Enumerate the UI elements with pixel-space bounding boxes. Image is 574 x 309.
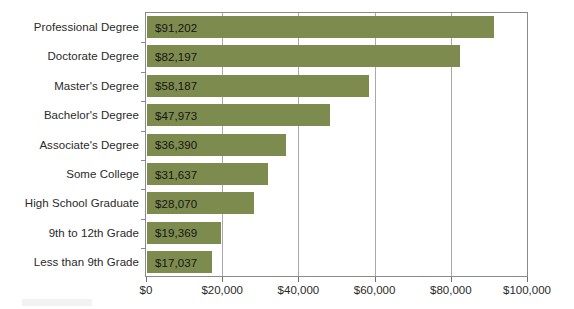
value-tick-label: $80,000 [430,284,472,296]
bar-value-label: $17,037 [155,257,197,269]
category-label: 9th to 12th Grade [49,219,139,248]
value-tick [298,277,299,282]
bar-row: $91,202 [146,13,527,42]
bar-row: $82,197 [146,42,527,71]
plot-area: $91,202$82,197$58,187$47,973$36,390$31,6… [145,12,528,277]
category-tick [141,101,146,102]
category-tick [141,42,146,43]
category-tick [141,72,146,73]
bar-rows: $91,202$82,197$58,187$47,973$36,390$31,6… [146,13,527,276]
category-label: Bachelor's Degree [44,101,139,130]
bar-row: $36,390 [146,131,527,160]
bar [147,16,494,38]
bar-value-label: $36,390 [155,139,197,151]
bar-row: $31,637 [146,160,527,189]
category-label: Some College [66,160,139,189]
value-tick [451,277,452,282]
category-tick [141,160,146,161]
bar-value-label: $47,973 [155,110,197,122]
footer-artifact [22,299,92,306]
value-tick-label: $100,000 [503,284,551,296]
bar-value-label: $82,197 [155,51,197,63]
bar-value-label: $28,070 [155,198,197,210]
bar-chart: Professional DegreeDoctorate DegreeMaste… [0,0,574,309]
bar-row: $17,037 [146,248,527,277]
category-label: Doctorate Degree [47,42,139,71]
bar-row: $19,369 [146,219,527,248]
bar-value-label: $31,637 [155,169,197,181]
category-tick [141,131,146,132]
category-tick [141,219,146,220]
value-tick [222,277,223,282]
value-tick [146,277,147,282]
value-tick-label: $0 [140,284,153,296]
category-label: High School Graduate [25,189,139,218]
value-tick [375,277,376,282]
bar-value-label: $91,202 [155,22,197,34]
category-label: Professional Degree [34,13,139,42]
category-label: Less than 9th Grade [34,248,139,277]
category-label: Associate's Degree [39,131,139,160]
bar-row: $58,187 [146,72,527,101]
bar-row: $28,070 [146,189,527,218]
category-label: Master's Degree [54,72,139,101]
bar-value-label: $19,369 [155,227,197,239]
category-axis: Professional DegreeDoctorate DegreeMaste… [0,12,139,277]
bar-value-label: $58,187 [155,80,197,92]
value-tick-label: $60,000 [354,284,396,296]
category-tick [141,189,146,190]
value-tick [527,277,528,282]
value-axis: $0$20,000$40,000$60,000$80,000$100,000 [145,277,529,307]
value-tick-label: $20,000 [201,284,243,296]
category-tick [141,248,146,249]
bar-row: $47,973 [146,101,527,130]
value-tick-label: $40,000 [278,284,320,296]
